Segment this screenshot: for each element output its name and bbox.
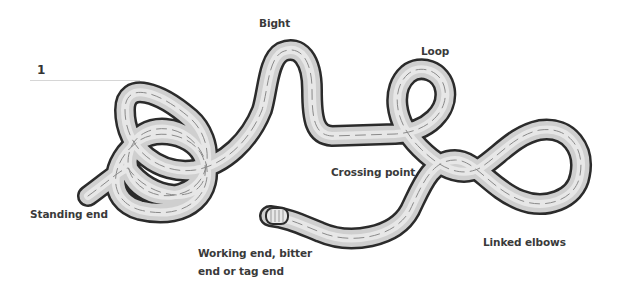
label-working-end-line2: end or tag end <box>198 265 284 277</box>
label-crossing-point: Crossing point <box>331 166 415 178</box>
label-bight: Bight <box>259 17 290 29</box>
label-working-end-line1: Working end, bitter <box>198 247 312 259</box>
label-loop: Loop <box>421 45 449 57</box>
label-linked-elbows: Linked elbows <box>483 236 566 248</box>
label-standing-end: Standing end <box>30 208 108 220</box>
diagram-canvas: 1 Bight Loop Crossing point Standing <box>0 0 620 288</box>
working-end-tip <box>266 208 288 224</box>
